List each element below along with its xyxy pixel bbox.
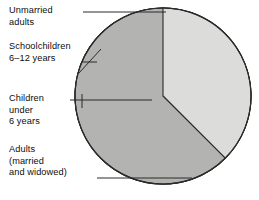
label-unmarried-line1: Unmarried bbox=[9, 5, 53, 17]
label-schoolchildren-line1: Schoolchildren bbox=[9, 41, 71, 53]
label-adults-line2: (married bbox=[9, 156, 67, 168]
label-children-line3: 6 years bbox=[9, 116, 44, 128]
label-adults-line3: and widowed) bbox=[9, 167, 67, 179]
label-children-line1: Children bbox=[9, 93, 44, 105]
label-unmarried-adults: Unmarried adults bbox=[9, 5, 53, 28]
label-unmarried-line2: adults bbox=[9, 17, 53, 29]
label-children-line2: under bbox=[9, 105, 44, 117]
pie-chart-figure: Unmarried adults Schoolchildren 6–12 yea… bbox=[0, 0, 259, 200]
label-adults-line1: Adults bbox=[9, 144, 67, 156]
label-schoolchildren: Schoolchildren 6–12 years bbox=[9, 41, 71, 64]
label-schoolchildren-line2: 6–12 years bbox=[9, 53, 71, 65]
label-children-under-6: Children under 6 years bbox=[9, 93, 44, 128]
label-adults-married-widowed: Adults (married and widowed) bbox=[9, 144, 67, 179]
